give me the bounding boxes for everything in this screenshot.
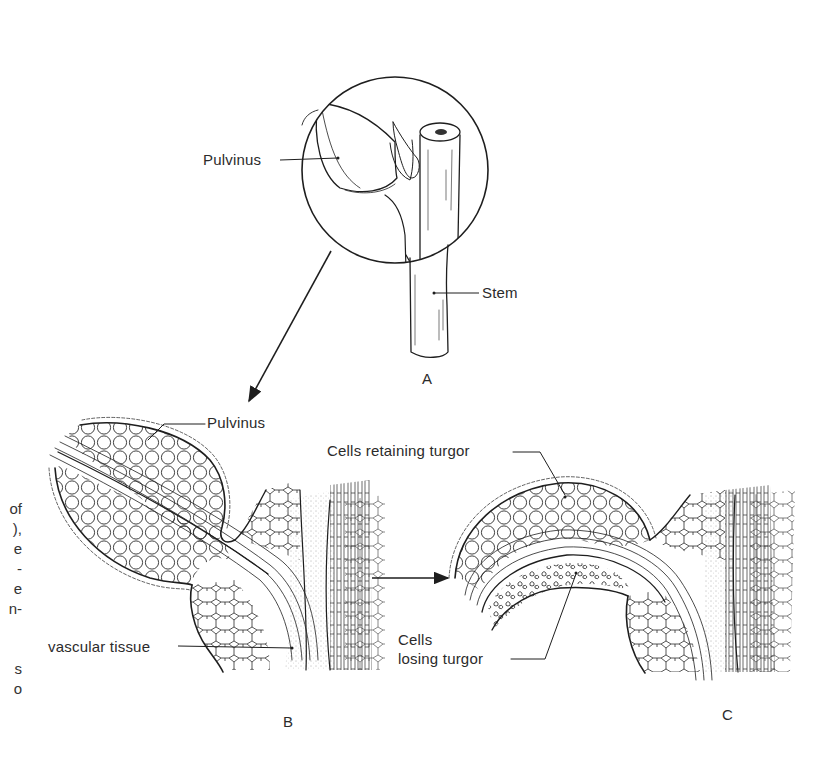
label-c-cells-losing-line1: Cells: [398, 631, 432, 649]
panel-c-drawing: [449, 452, 795, 680]
panel-letter-c: C: [722, 706, 733, 723]
label-c-cells-retaining-turgor: Cells retaining turgor: [327, 442, 470, 460]
panel-letter-a: A: [422, 370, 432, 387]
label-a-stem: Stem: [482, 284, 518, 302]
label-c-cells-losing-line2: losing turgor: [398, 650, 483, 668]
label-b-pulvinus: Pulvinus: [207, 414, 265, 432]
panel-a-drawing: [249, 77, 488, 401]
arrow-a-to-b: [249, 251, 331, 401]
label-b-vascular-tissue: vascular tissue: [48, 638, 150, 656]
panel-letter-b: B: [283, 713, 293, 730]
label-a-pulvinus: Pulvinus: [203, 151, 261, 169]
